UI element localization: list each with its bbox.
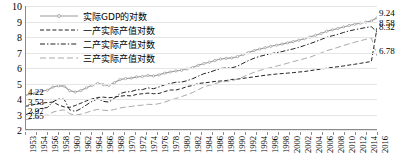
series-marker — [253, 49, 255, 51]
series-marker — [180, 69, 182, 71]
series-marker — [348, 24, 350, 26]
x-tick-label: 1986 — [215, 136, 225, 153]
x-tick — [201, 132, 202, 135]
x-tick — [223, 132, 224, 135]
series-marker — [264, 47, 266, 49]
x-tick-label: 2002 — [303, 136, 313, 153]
x-tick-label: 2008 — [336, 136, 346, 153]
x-tick — [245, 132, 246, 135]
series-marker — [164, 72, 166, 74]
series-marker — [130, 77, 132, 79]
series-marker — [152, 75, 154, 77]
x-tick — [47, 132, 48, 135]
series-marker — [342, 26, 344, 28]
series-marker — [141, 75, 143, 77]
x-tick — [278, 132, 279, 135]
series-marker — [231, 57, 233, 59]
x-tick — [322, 132, 323, 135]
x-tick — [267, 132, 268, 135]
start-value-label: 2.65 — [28, 111, 44, 121]
x-tick-label: 1968 — [116, 136, 126, 153]
x-tick-label: 2016 — [380, 136, 390, 153]
end-value-label: 6.78 — [379, 46, 395, 56]
series-marker — [147, 74, 149, 76]
series-marker — [337, 27, 339, 29]
series-marker — [136, 76, 138, 78]
x-tick-label: 1998 — [281, 136, 291, 153]
x-tick-label: 1992 — [248, 136, 258, 153]
x-tick-label: 1996 — [270, 136, 280, 153]
series-marker — [236, 56, 238, 58]
x-tick-label: 2010 — [347, 136, 357, 153]
series-marker — [197, 64, 199, 66]
end-value-label: 8.32 — [379, 22, 395, 32]
y-tick-label: 6 — [2, 63, 22, 74]
y-tick-label: 3 — [2, 109, 22, 120]
x-tick-label: 1964 — [94, 136, 104, 153]
y-tick-label: 8 — [2, 32, 22, 43]
y-axis: 2345678910 — [0, 6, 22, 130]
gridline — [25, 68, 377, 69]
legend-item-1: 实际GDP的对数 — [40, 10, 155, 22]
x-tick — [168, 132, 169, 135]
legend-key-icon — [40, 25, 78, 35]
x-tick-label: 2006 — [325, 136, 335, 153]
x-tick — [311, 132, 312, 135]
x-tick — [113, 132, 114, 135]
series-marker — [270, 45, 272, 47]
x-axis: 1953195419561958196019621964196619681970… — [25, 132, 377, 167]
x-tick-label: 2004 — [314, 136, 324, 153]
x-tick — [234, 132, 235, 135]
series-marker — [52, 86, 54, 88]
series-marker — [298, 39, 300, 41]
series-marker — [259, 48, 261, 50]
x-tick-label: 2012 — [358, 136, 368, 153]
series-marker — [175, 70, 177, 72]
end-value-label: 9.24 — [379, 8, 395, 18]
legend-label: 一产实际产值对数 — [83, 24, 155, 37]
gridline — [25, 99, 377, 100]
x-tick — [69, 132, 70, 135]
series-marker — [354, 23, 356, 25]
x-tick — [102, 132, 103, 135]
legend-key-icon — [40, 11, 78, 21]
y-tick-label: 7 — [2, 47, 22, 58]
x-tick — [256, 132, 257, 135]
series-marker — [69, 89, 71, 91]
x-axis-line — [25, 129, 377, 130]
series-marker — [46, 89, 48, 91]
x-tick-label: 1990 — [237, 136, 247, 153]
x-tick-label: 1978 — [171, 136, 181, 153]
series-marker — [214, 59, 216, 61]
series-marker — [74, 91, 76, 93]
series-marker — [119, 78, 121, 80]
x-tick-label: 1974 — [149, 136, 159, 153]
series-marker — [85, 87, 87, 89]
x-tick-label: 1953 — [28, 136, 38, 153]
series-marker — [225, 57, 227, 59]
gridline — [25, 84, 377, 85]
series-marker — [275, 44, 277, 46]
x-tick-label: 1956 — [50, 136, 60, 153]
x-tick — [135, 132, 136, 135]
x-tick-label: 1962 — [83, 136, 93, 153]
series-marker — [124, 77, 126, 79]
x-tick — [58, 132, 59, 135]
y-tick-label: 10 — [2, 1, 22, 12]
series-marker — [57, 85, 59, 87]
x-tick — [355, 132, 356, 135]
x-tick — [377, 132, 378, 135]
legend-item-4: 三产实际产值对数 — [40, 52, 155, 64]
x-tick-label: 1976 — [160, 136, 170, 153]
gridline — [25, 130, 377, 131]
series-marker — [169, 71, 171, 73]
x-tick-label: 1970 — [127, 136, 137, 153]
x-tick — [80, 132, 81, 135]
series-marker — [326, 30, 328, 32]
x-tick-label: 1984 — [204, 136, 214, 153]
series-marker — [376, 17, 377, 19]
y-tick-label: 9 — [2, 16, 22, 27]
series-marker — [320, 32, 322, 34]
legend-key-icon — [40, 39, 78, 49]
x-tick — [36, 132, 37, 135]
